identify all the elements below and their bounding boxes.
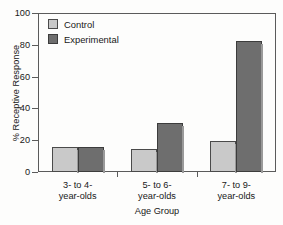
x-axis-title: Age Group xyxy=(38,206,276,216)
group-label-3: 7- to 9-year-olds xyxy=(191,180,281,202)
group-label-2: 5- to 6-year-olds xyxy=(112,180,202,202)
legend-item-control: Control xyxy=(48,17,119,31)
y-tick-mark xyxy=(32,172,38,173)
group-label-line1: 5- to 6- xyxy=(142,180,171,190)
legend-label-experimental: Experimental xyxy=(64,34,119,45)
bar-experimental-group-3 xyxy=(236,41,262,172)
bar-experimental-group-1 xyxy=(78,147,104,172)
group-label-1: 3- to 4-year-olds xyxy=(33,180,123,202)
x-tick-mark xyxy=(117,172,118,177)
y-tick-label: 0 xyxy=(0,167,30,177)
y-tick-label: 80 xyxy=(0,40,30,50)
y-tick-label: 60 xyxy=(0,72,30,82)
legend-item-experimental: Experimental xyxy=(48,32,119,46)
bar-control-group-1 xyxy=(52,147,78,172)
bar-control-group-2 xyxy=(131,149,157,172)
group-label-line2: year-olds xyxy=(191,191,281,202)
x-tick-mark xyxy=(197,172,198,177)
bar-shadow xyxy=(182,126,184,173)
legend-swatch-experimental-icon xyxy=(48,34,58,44)
legend-swatch-control-icon xyxy=(48,19,58,29)
group-label-line1: 3- to 4- xyxy=(63,180,92,190)
chart-figure: % Receptive Response 020406080100 3- to … xyxy=(0,0,283,225)
group-label-line2: year-olds xyxy=(33,191,123,202)
group-label-line2: year-olds xyxy=(112,191,202,202)
y-tick-label: 100 xyxy=(0,8,30,18)
bar-shadow xyxy=(261,44,263,173)
bar-experimental-group-2 xyxy=(157,123,183,172)
y-tick-label: 20 xyxy=(0,135,30,145)
bar-control-group-3 xyxy=(210,141,236,172)
legend-label-control: Control xyxy=(64,19,94,30)
y-axis-title: % Receptive Response xyxy=(11,13,21,173)
y-tick-label: 40 xyxy=(0,103,30,113)
chart-legend: Control Experimental xyxy=(48,17,119,47)
bar-shadow xyxy=(103,150,105,173)
group-label-line1: 7- to 9- xyxy=(222,180,251,190)
